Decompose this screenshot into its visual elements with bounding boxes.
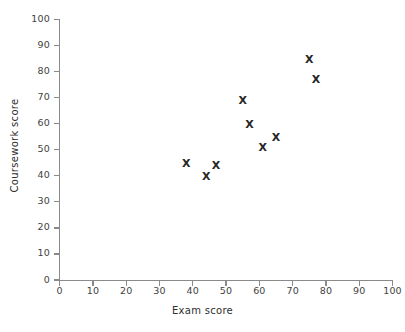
x-tick-label-text: 30 [153, 285, 166, 296]
x-tick-label-text: 20 [120, 285, 133, 296]
x-tick-label-text: 10 [87, 285, 100, 296]
x-tick-label-text: 80 [320, 285, 333, 296]
data-point-marker: X [202, 170, 210, 181]
x-tick-label-text: 0 [57, 285, 63, 296]
x-tick-label-text: 90 [353, 285, 366, 296]
y-axis-title: Coursework score [9, 86, 20, 206]
y-tick-label-text: 90 [38, 39, 51, 50]
y-tick-mark [54, 123, 59, 124]
scatter-chart: 0102030405060708090100010203040506070809… [0, 0, 405, 332]
y-tick-label-text: 100 [31, 13, 50, 24]
y-tick-label-text: 50 [38, 143, 51, 154]
y-tick-mark [54, 149, 59, 150]
y-tick-mark [54, 19, 59, 20]
y-tick-label-text: 60 [38, 117, 51, 128]
y-tick-mark [54, 175, 59, 176]
y-tick-label-text: 80 [38, 65, 51, 76]
data-point-marker: X [258, 142, 266, 153]
data-point-marker: X [312, 74, 320, 85]
y-tick-label-text: 20 [38, 221, 51, 232]
x-tick-label-text: 70 [286, 285, 299, 296]
x-tick-label-text: 50 [220, 285, 233, 296]
y-tick-mark [54, 71, 59, 72]
y-tick-mark [54, 227, 59, 228]
x-tick-label-text: 100 [383, 285, 402, 296]
y-tick-label-text: 0 [44, 274, 50, 285]
y-tick-label-text: 70 [38, 91, 51, 102]
y-tick-label-text: 30 [38, 195, 51, 206]
data-point-marker: X [272, 131, 280, 142]
y-tick-label-text: 40 [38, 169, 51, 180]
y-tick-label-text: 10 [38, 247, 51, 258]
x-tick-label-text: 40 [187, 285, 200, 296]
data-point-marker: X [238, 95, 246, 106]
y-tick-mark [54, 253, 59, 254]
y-tick-mark [54, 45, 59, 46]
data-point-marker: X [182, 157, 190, 168]
y-axis-line [59, 19, 60, 281]
y-tick-mark [54, 201, 59, 202]
data-point-marker: X [305, 53, 313, 64]
x-tick-label-text: 60 [253, 285, 266, 296]
x-axis-title: Exam score [0, 305, 405, 316]
data-point-marker: X [212, 160, 220, 171]
y-tick-mark [54, 97, 59, 98]
data-point-marker: X [245, 118, 253, 129]
